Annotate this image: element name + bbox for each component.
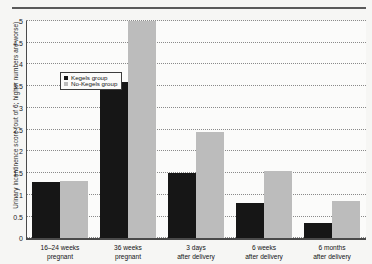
x-axis-line <box>26 238 366 240</box>
legend-swatch-icon <box>64 82 68 86</box>
y-tick-label: 0 <box>19 235 23 242</box>
bar-no-kegels <box>196 132 224 239</box>
bar-kegels <box>100 82 128 239</box>
x-axis-label-line: after delivery <box>162 252 230 261</box>
y-axis-line <box>26 21 27 240</box>
x-axis-label-line: 16–24 weeks <box>26 243 94 252</box>
bar-no-kegels <box>332 201 360 238</box>
figure-container: Urinary incontinence score (out of 6; hi… <box>0 0 372 264</box>
y-tick-label: 3.5 <box>13 83 23 90</box>
gridline: 4 <box>26 63 366 64</box>
y-tick-label: 2 <box>19 148 23 155</box>
gridline: 3 <box>26 107 366 108</box>
x-axis-label: 36 weekspregnant <box>94 243 162 262</box>
bar-no-kegels <box>60 181 88 239</box>
x-axis-label: 3 daysafter delivery <box>162 243 230 262</box>
chart-legend: Kegels groupNo-Kegels group <box>60 72 122 90</box>
y-tick-label: 2.5 <box>13 126 23 133</box>
top-divider-rule <box>12 7 366 9</box>
x-axis-label-line: pregnant <box>94 252 162 261</box>
bar-no-kegels <box>264 171 292 238</box>
y-tick-label: 5 <box>19 18 23 25</box>
x-axis-label-line: 3 days <box>162 243 230 252</box>
x-axis-label-line: 6 months <box>298 243 366 252</box>
bar-no-kegels <box>128 21 156 238</box>
x-axis-label-line: after delivery <box>298 252 366 261</box>
y-tick-label: 4 <box>19 61 23 68</box>
plot-area: 00.511.522.533.544.55 Kegels groupNo-Keg… <box>26 21 366 240</box>
bar-kegels <box>236 203 264 239</box>
bar-kegels <box>32 182 60 239</box>
legend-swatch-icon <box>64 76 68 80</box>
x-axis-labels-group: 16–24 weekspregnant36 weekspregnant3 day… <box>26 243 366 264</box>
y-tick-label: 1 <box>19 191 23 198</box>
bar-kegels <box>304 223 332 238</box>
x-axis-label-line: 6 weeks <box>230 243 298 252</box>
legend-item: No-Kegels group <box>64 81 117 87</box>
bar-kegels <box>168 173 196 238</box>
y-tick-label: 3 <box>19 104 23 111</box>
x-axis-label-line: after delivery <box>230 252 298 261</box>
y-tick-label: 4.5 <box>13 39 23 46</box>
y-tick-label: 1.5 <box>13 170 23 177</box>
legend-label: No-Kegels group <box>71 81 117 87</box>
gridline: 4.5 <box>26 42 366 43</box>
x-axis-label-line: pregnant <box>26 252 94 261</box>
gridline: 2.5 <box>26 129 366 130</box>
x-axis-label: 16–24 weekspregnant <box>26 243 94 262</box>
x-axis-label: 6 monthsafter delivery <box>298 243 366 262</box>
x-axis-label-line: 36 weeks <box>94 243 162 252</box>
y-tick-label: 0.5 <box>13 213 23 220</box>
gridline: 5 <box>26 20 366 21</box>
x-axis-label: 6 weeksafter delivery <box>230 243 298 262</box>
